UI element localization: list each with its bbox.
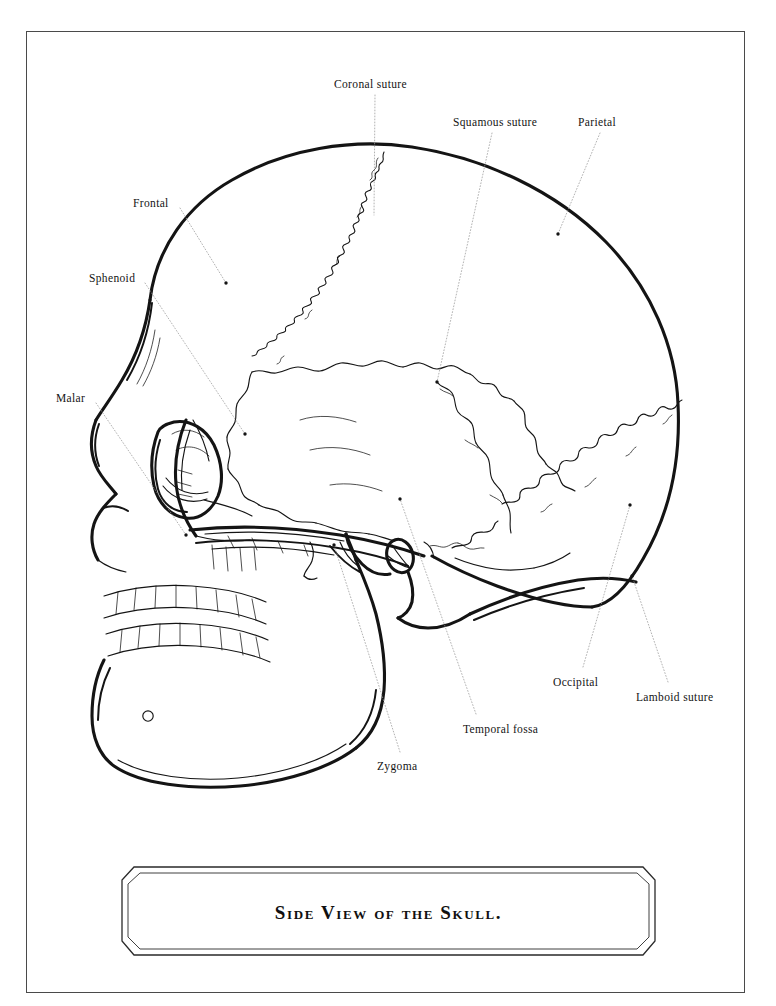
label-occipital: Occipital <box>553 677 598 689</box>
label-zygoma: Zygoma <box>377 761 417 773</box>
label-coronal-suture: Coronal suture <box>334 79 407 91</box>
anatomical-plate: .ink { fill:none; stroke:#141414; } .thi… <box>0 0 776 1006</box>
label-squamous-suture: Squamous suture <box>453 117 537 129</box>
label-parietal: Parietal <box>578 117 616 129</box>
label-malar: Malar <box>56 393 85 405</box>
label-lamboid-suture: Lamboid suture <box>636 692 713 704</box>
label-temporal-fossa: Temporal fossa <box>463 724 538 736</box>
caption-box: Side View of the Skull. <box>120 866 657 958</box>
plate-border <box>26 31 745 993</box>
plate-caption: Side View of the Skull. <box>120 902 657 924</box>
label-frontal: Frontal <box>133 198 169 210</box>
label-sphenoid: Sphenoid <box>89 273 135 285</box>
